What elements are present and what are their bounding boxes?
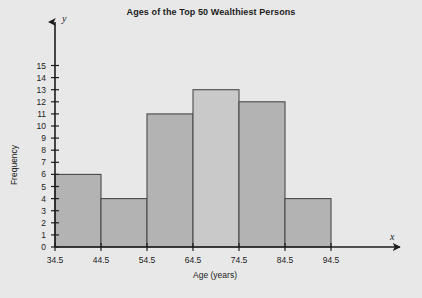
x-axis-tick-label: 74.5: [231, 255, 248, 265]
bars-group: [55, 90, 331, 247]
x-axis-tick-label: 34.5: [47, 255, 64, 265]
y-axis-tick-label: 12: [37, 97, 47, 107]
histogram-bar: [193, 90, 239, 247]
x-axis-tick-label: 44.5: [93, 255, 110, 265]
y-axis-tick-label: 1: [41, 230, 46, 240]
x-axis-tick-label: 84.5: [277, 255, 294, 265]
y-axis-tick-label: 14: [37, 73, 47, 83]
y-axis-tick-label: 8: [41, 145, 46, 155]
y-axis-tick-label: 2: [41, 218, 46, 228]
y-axis-tick-label: 10: [37, 121, 47, 131]
histogram-bar: [147, 114, 193, 247]
y-axis-tick-label: 13: [37, 85, 47, 95]
histogram-bar: [285, 199, 331, 247]
chart-plot-area: 0123456789101112131415 34.544.554.564.57…: [0, 0, 422, 298]
histogram-bar: [101, 199, 147, 247]
histogram-chart: Ages of the Top 50 Wealthiest Persons 01…: [0, 0, 422, 298]
y-axis-tick-label: 9: [41, 133, 46, 143]
x-axis-tick-label: 94.5: [323, 255, 340, 265]
y-axis-tick-label: 6: [41, 169, 46, 179]
histogram-bar: [239, 102, 285, 247]
y-axis-title: Frequency: [9, 144, 19, 185]
histogram-bar: [55, 174, 101, 247]
y-axis-tick-label: 11: [37, 109, 46, 119]
y-axis-tick-label: 3: [41, 206, 46, 216]
y-axis-letter: y: [61, 13, 67, 24]
x-axis-tick-label: 54.5: [139, 255, 156, 265]
x-axis-letter: x: [389, 231, 395, 242]
y-axis-tick-label: 5: [41, 182, 46, 192]
y-axis-tick-label: 4: [41, 194, 46, 204]
y-axis-tick-label: 15: [37, 61, 47, 71]
x-axis-tick-label: 64.5: [185, 255, 202, 265]
y-axis-tick-label: 7: [41, 157, 46, 167]
y-axis-tick-label: 0: [41, 242, 46, 252]
x-axis-title: Age (years): [193, 270, 237, 280]
